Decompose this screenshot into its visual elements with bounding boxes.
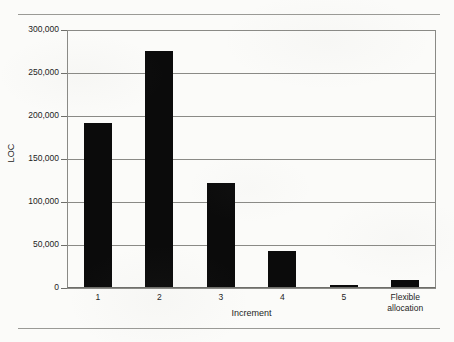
y-axis-tick-label: 150,000 bbox=[0, 154, 59, 163]
y-axis-tick-label: 250,000 bbox=[0, 68, 59, 77]
x-axis-tick-label-line: 5 bbox=[313, 292, 375, 303]
x-axis-tick-label-line: 4 bbox=[251, 292, 313, 303]
plot-frame bbox=[67, 30, 436, 288]
x-axis-tick-label-line: Flexible bbox=[374, 292, 436, 303]
y-axis-tick-label: 50,000 bbox=[0, 240, 59, 249]
plot-area bbox=[67, 30, 436, 288]
x-axis-tick-label-line: 3 bbox=[190, 292, 252, 303]
gridline bbox=[67, 288, 436, 289]
top-divider-rule bbox=[18, 14, 440, 15]
y-axis-tick-labels: 050,000100,000150,000200,000250,000300,0… bbox=[0, 30, 59, 288]
y-axis-tick-label: 0 bbox=[0, 283, 59, 292]
y-axis-tick-label: 200,000 bbox=[0, 111, 59, 120]
y-axis-tick-mark bbox=[61, 288, 67, 289]
x-axis-title: Increment bbox=[67, 308, 436, 318]
x-axis-tick-label-line: 1 bbox=[67, 292, 129, 303]
x-axis-tick-label: 5 bbox=[313, 292, 375, 303]
bottom-divider-rule bbox=[18, 328, 440, 329]
x-axis-tick-label: 2 bbox=[128, 292, 190, 303]
y-axis-tick-label: 100,000 bbox=[0, 197, 59, 206]
y-axis-tick-label: 300,000 bbox=[0, 25, 59, 34]
x-axis-tick-label-line: 2 bbox=[128, 292, 190, 303]
x-axis-tick-label: 3 bbox=[190, 292, 252, 303]
x-axis-tick-label: 1 bbox=[67, 292, 129, 303]
figure-page: LOC 050,000100,000150,000200,000250,0003… bbox=[0, 0, 454, 342]
x-axis-tick-label: 4 bbox=[251, 292, 313, 303]
